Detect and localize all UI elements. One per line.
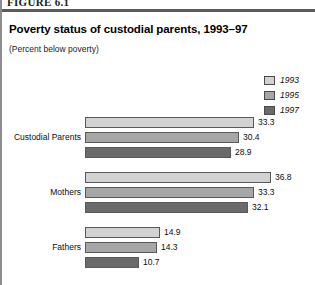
category-label: Mothers: [50, 187, 81, 197]
bar-group: Mothers36.833.332.1: [0, 167, 315, 222]
chart-plot-area: Custodial Parents33.330.428.9Mothers36.8…: [0, 112, 315, 277]
bar-group: Fathers14.914.310.7: [0, 222, 315, 277]
bar-row: 14.3: [85, 242, 178, 253]
bar-1993: [85, 227, 160, 238]
bar-value-label: 33.3: [258, 187, 275, 198]
bar-value-label: 32.1: [252, 202, 269, 213]
legend-item-1995: 1995: [264, 90, 299, 101]
bar-row: 33.3: [85, 117, 275, 128]
chart-title: Poverty status of custodial parents, 199…: [9, 23, 247, 35]
bar-1997: [85, 257, 139, 268]
chart-subtitle: (Percent below poverty): [9, 44, 99, 54]
bar-row: 14.9: [85, 227, 181, 238]
figure-label: FIGURE 6.1: [7, 0, 69, 8]
bar-row: 36.8: [85, 172, 292, 183]
bar-value-label: 30.4: [243, 132, 260, 143]
bar-row: 33.3: [85, 187, 275, 198]
bar-group: Custodial Parents33.330.428.9: [0, 112, 315, 167]
bar-value-label: 14.3: [161, 242, 178, 253]
legend-swatch-icon: [264, 91, 275, 100]
legend-item-1993: 1993: [264, 75, 299, 86]
bar-value-label: 14.9: [164, 227, 181, 238]
bar-value-label: 36.8: [275, 172, 292, 183]
bar-row: 32.1: [85, 202, 269, 213]
bar-1997: [85, 202, 248, 213]
bar-1997: [85, 147, 231, 158]
bar-row: 10.7: [85, 257, 160, 268]
legend-swatch-icon: [264, 76, 275, 85]
bar-1995: [85, 187, 254, 198]
category-label: Fathers: [52, 242, 81, 252]
bar-value-label: 33.3: [258, 117, 275, 128]
category-label: Custodial Parents: [14, 132, 81, 142]
legend-item-label: 1993: [280, 76, 299, 85]
bar-value-label: 28.9: [235, 147, 252, 158]
bar-value-label: 10.7: [143, 257, 160, 268]
legend-item-label: 1995: [280, 91, 299, 100]
bar-1995: [85, 242, 157, 253]
bar-1995: [85, 132, 239, 143]
bar-1993: [85, 117, 254, 128]
bar-1993: [85, 172, 271, 183]
bar-row: 30.4: [85, 132, 260, 143]
bar-row: 28.9: [85, 147, 252, 158]
figure-container: FIGURE 6.1 Poverty status of custodial p…: [0, 0, 315, 285]
header-horizontal-rule: [2, 9, 315, 12]
